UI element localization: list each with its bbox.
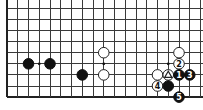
white-stone-icon (98, 47, 109, 58)
white-stone (163, 70, 174, 81)
black-stone-move-5: 5 (174, 92, 185, 103)
black-stone (77, 70, 88, 81)
white-stone (98, 47, 109, 58)
white-stone (152, 70, 163, 81)
star-point (167, 62, 170, 65)
white-stone (98, 70, 109, 81)
black-stone-move-1: 1 (174, 70, 185, 81)
star-point (38, 62, 41, 65)
black-stone (23, 59, 34, 70)
move-number-label: 2 (176, 60, 182, 69)
black-stone-icon (163, 81, 174, 92)
white-stone-icon (98, 70, 109, 81)
black-stone (45, 59, 56, 70)
move-number-label: 3 (187, 71, 193, 80)
black-stone (163, 81, 174, 92)
white-stone-move-2: 2 (174, 59, 185, 70)
go-board-diagram: 21345 (0, 0, 203, 110)
black-stone-icon (45, 59, 56, 70)
move-number-label: 4 (155, 82, 161, 91)
black-stone-icon (23, 59, 34, 70)
white-stone-move-4: 4 (152, 81, 163, 92)
star-point (102, 62, 105, 65)
white-stone-icon (174, 47, 185, 58)
black-stone-icon (77, 70, 88, 81)
black-stone-move-3: 3 (184, 70, 195, 81)
white-stone-icon (152, 70, 163, 81)
move-number-label: 5 (176, 93, 182, 102)
move-number-label: 1 (176, 71, 182, 80)
white-stone (174, 47, 185, 58)
